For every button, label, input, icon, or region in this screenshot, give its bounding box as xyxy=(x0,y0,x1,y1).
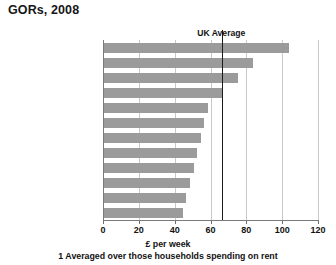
chart-footnote: 1 Averaged over those households spendin… xyxy=(0,251,336,261)
plot-region: LondonSouth EastEastSouth WestEast Midla… xyxy=(103,40,319,220)
bar-row: Wales xyxy=(104,133,319,143)
bar-row: West Midlands xyxy=(104,163,319,173)
bar[interactable] xyxy=(104,163,194,173)
bar-row: Northern Ireland xyxy=(104,178,319,188)
chart-page: GORs, 2008 LondonSouth EastEastSouth Wes… xyxy=(0,0,336,265)
page-title: GORs, 2008 xyxy=(8,3,79,17)
x-axis-title: £ per week xyxy=(0,239,336,249)
bar[interactable] xyxy=(104,208,183,218)
uk-average-label: UK Average xyxy=(197,28,245,38)
bar[interactable] xyxy=(104,58,253,68)
x-tick-label: 80 xyxy=(241,225,251,235)
x-tick-label: 0 xyxy=(100,225,105,235)
x-tick-label: 20 xyxy=(134,225,144,235)
bar[interactable] xyxy=(104,118,204,128)
bar-row: South East xyxy=(104,58,319,68)
x-tick-label: 60 xyxy=(205,225,215,235)
bar[interactable] xyxy=(104,73,238,83)
bar[interactable] xyxy=(104,148,197,158)
bar-row: East xyxy=(104,73,319,83)
bar-row: North West xyxy=(104,193,319,203)
x-axis xyxy=(103,220,319,221)
bar[interactable] xyxy=(104,178,190,188)
bar[interactable] xyxy=(104,103,208,113)
bar-rows: LondonSouth EastEastSouth WestEast Midla… xyxy=(104,40,319,220)
x-tick-label: 120 xyxy=(310,225,325,235)
bar[interactable] xyxy=(104,193,186,203)
bar[interactable] xyxy=(104,43,289,53)
bar-row: London xyxy=(104,43,319,53)
uk-average-line xyxy=(222,30,223,220)
bar-row: Yorks & the Humber xyxy=(104,118,319,128)
x-tick-label: 40 xyxy=(170,225,180,235)
bar-row: North East xyxy=(104,208,319,218)
bar-row: Scotland xyxy=(104,148,319,158)
bar-row: South West xyxy=(104,88,319,98)
chart-area: LondonSouth EastEastSouth WestEast Midla… xyxy=(0,28,336,265)
bar-row: East Midlands xyxy=(104,103,319,113)
bar[interactable] xyxy=(104,133,201,143)
x-tick-label: 100 xyxy=(275,225,290,235)
bar[interactable] xyxy=(104,88,222,98)
